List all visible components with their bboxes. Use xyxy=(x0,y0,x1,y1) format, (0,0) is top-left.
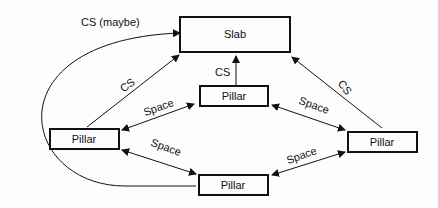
label-space-top-right: Space xyxy=(297,94,330,116)
edge-space-left-bottom xyxy=(122,150,196,174)
label-space-bottom-right: Space xyxy=(285,144,318,166)
edge-cs-left xyxy=(87,55,179,127)
node-pillar-right: Pillar xyxy=(348,132,417,152)
label-space-top-left: Space xyxy=(142,96,175,118)
label-cs-center: CS xyxy=(215,66,230,78)
label-cs-maybe: CS (maybe) xyxy=(81,16,140,28)
node-slab: Slab xyxy=(180,17,290,52)
node-pillar-left-label: Pillar xyxy=(72,133,97,145)
node-pillar-top: Pillar xyxy=(200,86,268,106)
node-pillar-top-label: Pillar xyxy=(222,90,247,102)
node-slab-label: Slab xyxy=(224,28,246,40)
node-pillar-right-label: Pillar xyxy=(370,136,395,148)
diagram-canvas: CS (maybe) CS CS CS Space Space Space Sp… xyxy=(0,0,438,208)
node-pillar-left: Pillar xyxy=(50,129,119,149)
diagram-svg: CS (maybe) CS CS CS Space Space Space Sp… xyxy=(0,0,438,208)
edge-cs-maybe xyxy=(42,33,196,186)
label-space-left-bottom: Space xyxy=(149,136,182,158)
node-pillar-bottom-label: Pillar xyxy=(221,179,246,191)
edge-cs-right xyxy=(292,57,382,128)
label-cs-left: CS xyxy=(118,76,137,95)
node-pillar-bottom: Pillar xyxy=(199,175,268,195)
